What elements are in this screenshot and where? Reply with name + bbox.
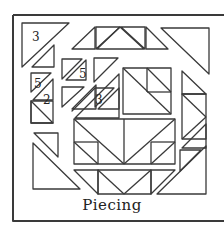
patch-triangle — [151, 170, 175, 194]
patch-triangle — [62, 87, 84, 107]
patch-triangle — [32, 45, 54, 67]
patch-triangle — [182, 71, 206, 94]
patch-label: 3 — [32, 30, 40, 44]
patch-label: 5 — [34, 77, 42, 91]
patch-label: 3 — [95, 93, 103, 107]
patch-label: 5 — [79, 67, 87, 81]
patch-label: 2 — [43, 93, 51, 107]
diagram-caption: Piecing — [0, 196, 224, 214]
patch-triangle — [72, 88, 95, 111]
quilt-block-svg: 3 5 5 2 3 — [0, 0, 224, 229]
patch-triangle — [121, 27, 145, 49]
patch-triangle — [161, 28, 209, 74]
patch-triangle — [180, 150, 201, 171]
patch-square — [98, 170, 151, 194]
patch-triangle — [97, 27, 144, 49]
patch-triangle — [72, 27, 95, 49]
patch-square — [182, 94, 206, 139]
patch-triangle — [33, 143, 80, 189]
patch-triangle — [72, 85, 96, 109]
patch-triangle — [34, 133, 58, 157]
piecing-diagram: 3 5 5 2 3 Piecing — [0, 0, 224, 229]
patch-triangle — [146, 27, 168, 49]
patch-triangle — [74, 170, 98, 194]
